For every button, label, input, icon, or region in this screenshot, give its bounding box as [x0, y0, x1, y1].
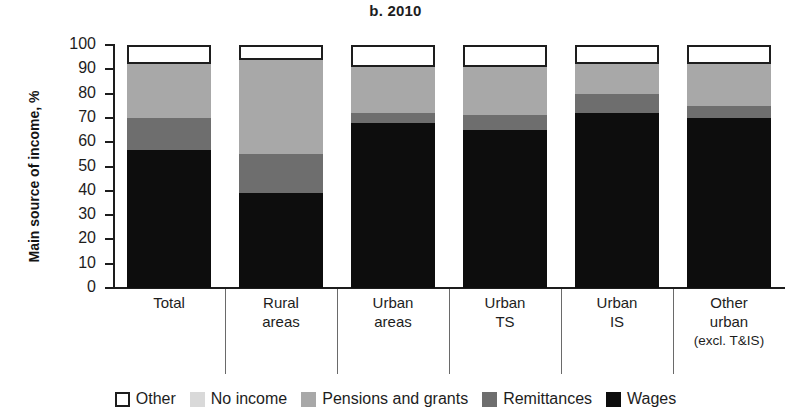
x-axis-category-label: Urbanareas: [337, 293, 449, 331]
x-axis-category-label: UrbanIS: [561, 293, 673, 331]
legend-label: Wages: [627, 390, 676, 408]
legend-item[interactable]: Pensions and grants: [301, 390, 468, 408]
x-axis-category-band: TotalRuralareasUrbanareasUrbanTSUrbanISO…: [113, 289, 785, 374]
category-label-line: Total: [113, 293, 225, 312]
category-label-line: Other: [673, 293, 785, 312]
y-tick-label: 70: [0, 109, 96, 125]
category-label-line: IS: [561, 312, 673, 331]
legend-swatch-icon: [190, 392, 205, 407]
bar-segment-other: [575, 45, 659, 64]
y-tick-label: 30: [0, 206, 96, 222]
y-tick-label: 40: [0, 182, 96, 198]
legend-label: Other: [136, 390, 176, 408]
chart-title: b. 2010: [0, 2, 791, 19]
legend-item[interactable]: Wages: [606, 390, 676, 408]
chart-legend: OtherNo incomePensions and grantsRemitta…: [0, 386, 791, 412]
y-tick-label: 50: [0, 158, 96, 174]
legend-swatch-icon: [115, 392, 130, 407]
legend-label: Remittances: [503, 390, 592, 408]
legend-item[interactable]: Other: [115, 390, 176, 408]
bar-segment-other: [239, 45, 323, 60]
bar-segment-wages: [127, 150, 211, 289]
legend-item[interactable]: No income: [190, 390, 287, 408]
bar-stack: [351, 45, 435, 288]
bar-segment-remittances: [575, 94, 659, 113]
bar-segment-pensions-and-grants: [351, 67, 435, 113]
y-tick-label: 0: [0, 279, 96, 295]
bar-segment-other: [687, 45, 771, 64]
bar-stack: [463, 45, 547, 288]
x-axis-category-label: Otherurban(excl. T&IS): [673, 293, 785, 350]
bar-segment-remittances: [239, 154, 323, 193]
y-tick-label: 80: [0, 85, 96, 101]
bar-segment-wages: [687, 118, 771, 288]
x-axis-category-label: Ruralareas: [225, 293, 337, 331]
bar-stack: [127, 45, 211, 288]
bar-segment-remittances: [127, 118, 211, 150]
plot-area: [113, 45, 785, 288]
bar-segment-pensions-and-grants: [239, 60, 323, 155]
bar-segment-pensions-and-grants: [127, 64, 211, 117]
bar-segment-pensions-and-grants: [575, 64, 659, 93]
category-label-line: areas: [225, 312, 337, 331]
bar-segment-remittances: [351, 113, 435, 123]
category-label-line: (excl. T&IS): [673, 331, 785, 350]
legend-label: Pensions and grants: [322, 390, 468, 408]
bar-stack: [687, 45, 771, 288]
bar-segment-other: [463, 45, 547, 67]
x-axis-category-label: UrbanTS: [449, 293, 561, 331]
bar-segment-wages: [463, 130, 547, 288]
category-label-line: Rural: [225, 293, 337, 312]
bar-segment-pensions-and-grants: [687, 64, 771, 105]
bar-stack: [239, 45, 323, 288]
y-tick-label: 60: [0, 133, 96, 149]
legend-label: No income: [211, 390, 287, 408]
y-tick-label: 90: [0, 60, 96, 76]
category-label-line: Urban: [449, 293, 561, 312]
category-label-line: TS: [449, 312, 561, 331]
legend-swatch-icon: [301, 392, 316, 407]
category-label-line: Urban: [337, 293, 449, 312]
bar-segment-wages: [351, 123, 435, 288]
y-tick-label: 100: [0, 36, 96, 52]
bar-segment-remittances: [687, 106, 771, 118]
category-label-line: areas: [337, 312, 449, 331]
bar-segment-wages: [239, 193, 323, 288]
bar-segment-other: [351, 45, 435, 67]
y-axis-title: Main source of income, %: [26, 77, 43, 277]
y-tick-label: 20: [0, 230, 96, 246]
bar-segment-other: [127, 45, 211, 64]
bar-segment-pensions-and-grants: [463, 67, 547, 116]
category-label-line: urban: [673, 312, 785, 331]
y-tick-label: 10: [0, 255, 96, 271]
legend-swatch-icon: [606, 392, 621, 407]
bar-segment-wages: [575, 113, 659, 288]
legend-swatch-icon: [482, 392, 497, 407]
bar-stack: [575, 45, 659, 288]
category-label-line: Urban: [561, 293, 673, 312]
stacked-bar-chart-figure: b. 2010 Main source of income, % 1009080…: [0, 0, 791, 415]
bar-segment-remittances: [463, 115, 547, 130]
legend-item[interactable]: Remittances: [482, 390, 592, 408]
x-axis-category-label: Total: [113, 293, 225, 312]
